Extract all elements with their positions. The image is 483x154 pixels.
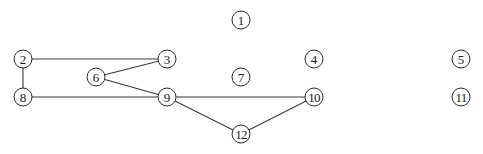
node-5: 5 bbox=[452, 50, 470, 68]
node-label: 12 bbox=[235, 127, 247, 142]
node-2: 2 bbox=[14, 50, 32, 68]
node-label: 9 bbox=[164, 90, 171, 105]
node-4: 4 bbox=[305, 50, 323, 68]
node-label: 7 bbox=[238, 70, 245, 85]
node-label: 3 bbox=[164, 52, 171, 67]
node-label: 1 bbox=[238, 13, 245, 28]
node-10: 10 bbox=[305, 88, 323, 106]
node-11: 11 bbox=[452, 88, 470, 106]
node-9: 9 bbox=[158, 88, 176, 106]
node-3: 3 bbox=[158, 50, 176, 68]
edge-6-9 bbox=[96, 77, 167, 97]
edge-3-6 bbox=[96, 59, 167, 77]
node-1: 1 bbox=[232, 11, 250, 29]
node-label: 5 bbox=[458, 52, 465, 67]
node-label: 6 bbox=[93, 70, 100, 85]
node-label: 10 bbox=[308, 90, 320, 105]
node-label: 11 bbox=[456, 90, 467, 105]
node-12: 12 bbox=[232, 125, 250, 143]
graph-diagram: 123456789101112 bbox=[0, 0, 483, 154]
node-label: 4 bbox=[311, 52, 318, 67]
node-8: 8 bbox=[14, 88, 32, 106]
edge-12-10 bbox=[241, 97, 314, 134]
node-7: 7 bbox=[232, 68, 250, 86]
edge-9-12 bbox=[167, 97, 241, 134]
nodes-layer: 123456789101112 bbox=[14, 11, 470, 143]
node-label: 2 bbox=[20, 52, 27, 67]
node-6: 6 bbox=[87, 68, 105, 86]
node-label: 8 bbox=[20, 90, 27, 105]
